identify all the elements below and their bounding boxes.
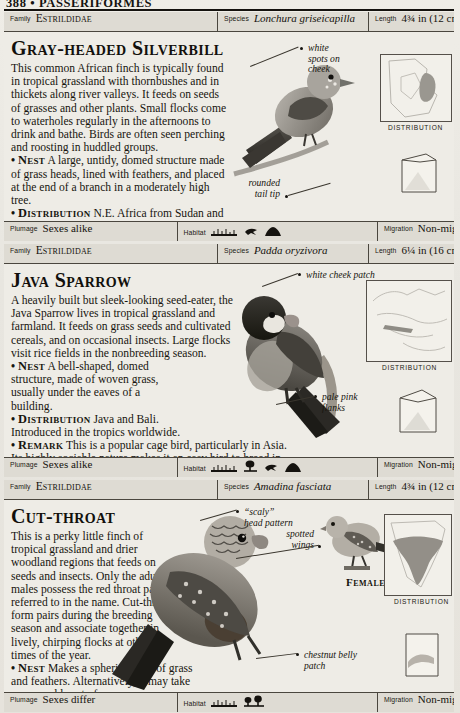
grass-icon xyxy=(211,227,237,236)
entry-status-bar: Plumage Sexes alike Habitat xyxy=(4,457,454,477)
habitat-cell: Habitat xyxy=(178,458,379,477)
bird-perch-icon xyxy=(244,227,258,236)
grass-icon xyxy=(211,698,237,707)
bird-perch-icon xyxy=(264,463,278,472)
entry-info-bar: Family Estrildidae Species Amadina fasci… xyxy=(4,480,454,500)
length-cell: Length 6¼ in (16 cm) xyxy=(369,244,454,263)
header-rule xyxy=(4,9,454,11)
habitat-cell: Habitat xyxy=(178,222,379,241)
bullet: • xyxy=(11,360,18,373)
migration-label: Migration xyxy=(384,225,413,232)
grass-icon xyxy=(211,463,237,472)
annotation-dot xyxy=(298,273,301,276)
entry-body: Female “scaly” head pattern spotted wing… xyxy=(4,500,454,692)
species-cell: Species Padda oryzivora xyxy=(218,244,369,263)
annotation-white-cheek-patch: white cheek patch xyxy=(306,270,426,281)
annotation-white-spots: white spots on cheek xyxy=(308,43,378,75)
scrub-icon xyxy=(244,695,264,707)
habitat-icon-group xyxy=(211,458,301,472)
species-cell: Species Lonchura griseicapilla xyxy=(218,12,369,31)
plumage-label: Plumage xyxy=(10,225,38,232)
entry-text: This common African finch is typically f… xyxy=(11,62,227,221)
entry-nest: • Nest A large, untidy, domed structure … xyxy=(11,154,227,207)
length-label: Length xyxy=(375,15,396,22)
entry-status-bar: Plumage Sexes differ Habitat M xyxy=(4,692,454,712)
entry-java-sparrow: Family Estrildidae Species Padda oryzivo… xyxy=(4,244,454,476)
entry-status-bar: Plumage Sexes alike Habitat xyxy=(4,221,454,241)
distribution-caption: DISTRIBUTION xyxy=(394,598,449,605)
bullet: • xyxy=(11,154,18,167)
family-value: Estrildidae xyxy=(36,12,92,24)
bush-icon xyxy=(285,463,301,472)
plumage-value: Sexes alike xyxy=(43,222,93,234)
distribution-caption: DISTRIBUTION xyxy=(382,364,437,371)
entry-info-bar: Family Estrildidae Species Lonchura gris… xyxy=(4,12,454,32)
distribution-caption: DISTRIBUTION xyxy=(388,124,443,131)
bird-illustration-java-sparrow xyxy=(200,274,380,457)
migration-cell: Migration Non-migrant xyxy=(378,693,454,712)
bush-icon xyxy=(265,227,281,236)
habitat-label: Habitat xyxy=(184,229,206,236)
family-label: Family xyxy=(10,247,31,254)
nest-icon xyxy=(394,386,440,436)
habitat-label: Habitat xyxy=(184,465,206,472)
length-label: Length xyxy=(375,247,396,254)
plumage-label: Plumage xyxy=(10,461,38,468)
nest-icon xyxy=(396,150,440,196)
migration-label: Migration xyxy=(384,461,413,468)
annotation-rounded-tail: rounded tail tip xyxy=(218,178,280,199)
nest-keyword: Nest xyxy=(18,153,45,167)
species-value: Padda oryzivora xyxy=(254,244,328,256)
field-guide-page: 388 • PASSERIFORMES Family Estrildidae S… xyxy=(0,0,460,713)
plumage-cell: Plumage Sexes differ xyxy=(4,693,178,712)
bullet: • xyxy=(11,207,18,220)
family-cell: Family Estrildidae xyxy=(4,480,218,499)
annotation-pale-pink-flanks: pale pink flanks xyxy=(322,392,390,413)
annotation-chestnut-belly-patch: chestnut belly patch xyxy=(304,650,392,671)
nest-keyword: Nest xyxy=(18,661,45,675)
bullet: • xyxy=(11,413,18,426)
family-value: Estrildidae xyxy=(36,244,92,256)
habitat-cell: Habitat xyxy=(178,693,379,712)
species-label: Species xyxy=(224,483,249,490)
entry-nest: • Nest A bell-shaped, domed structure, m… xyxy=(11,360,177,413)
entry-description: This common African finch is typically f… xyxy=(11,62,227,154)
species-value: Lonchura griseicapilla xyxy=(254,12,355,24)
family-label: Family xyxy=(10,15,31,22)
length-cell: Length 4¾ in (12 cm) xyxy=(369,12,454,31)
plumage-cell: Plumage Sexes alike xyxy=(4,458,178,477)
habitat-icon-group xyxy=(211,222,281,236)
distribution-map xyxy=(384,514,452,596)
annotation-scaly-head-pattern: “scaly” head pattern xyxy=(244,507,328,528)
migration-cell: Migration Non-migrant xyxy=(378,458,454,477)
plumage-value: Sexes alike xyxy=(43,458,93,470)
entry-distribution: • Distribution Java and Bali. Introduced… xyxy=(11,413,187,439)
family-label: Family xyxy=(10,483,31,490)
plumage-label: Plumage xyxy=(10,696,38,703)
length-value: 4¾ in (12 cm) xyxy=(401,480,454,492)
distribution-keyword: Distribution xyxy=(18,412,91,426)
entry-cut-throat: Family Estrildidae Species Amadina fasci… xyxy=(4,480,454,711)
family-value: Estrildidae xyxy=(36,480,92,492)
distribution-keyword: Distribution xyxy=(18,206,91,220)
family-cell: Family Estrildidae xyxy=(4,244,218,263)
plumage-cell: Plumage Sexes alike xyxy=(4,222,178,241)
entry-body: white cheek patch pale pink flanks xyxy=(4,264,454,457)
remark-keyword: Remark xyxy=(18,438,63,452)
migration-label: Migration xyxy=(384,696,413,703)
length-value: 4¾ in (12 cm) xyxy=(401,12,454,24)
length-cell: Length 4¾ in (12 cm) xyxy=(369,480,454,499)
entry-info-bar: Family Estrildidae Species Padda oryzivo… xyxy=(4,244,454,264)
bullet: • xyxy=(11,439,18,452)
length-label: Length xyxy=(375,483,396,490)
tree-icon xyxy=(244,460,257,472)
distribution-map xyxy=(380,54,452,122)
migration-cell: Migration Non-migrant xyxy=(378,222,454,241)
distribution-map xyxy=(366,280,452,362)
female-caption: Female xyxy=(346,576,385,588)
habitat-label: Habitat xyxy=(184,700,206,707)
nest-icon xyxy=(400,628,444,680)
species-cell: Species Amadina fasciata xyxy=(218,480,369,499)
species-value: Amadina fasciata xyxy=(254,480,331,492)
migration-value: Non-migrant xyxy=(418,693,454,705)
